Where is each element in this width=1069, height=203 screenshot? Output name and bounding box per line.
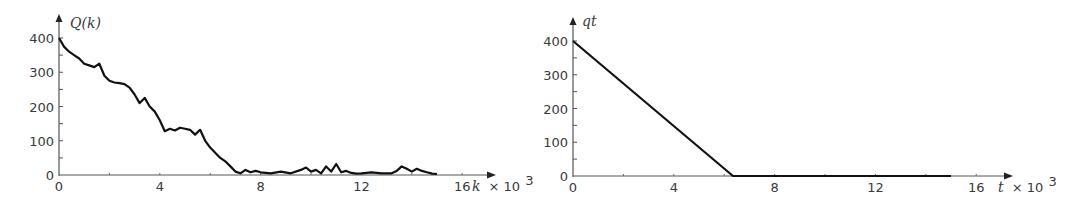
y-tick-label: 0 [560,169,568,184]
x-axis-label: k × 10 3 [472,173,534,195]
y-axis-arrow-icon [56,14,63,22]
y-tick-label: 400 [29,31,54,46]
x-tick-label: 12 [867,180,884,195]
x-tick-label: 0 [55,179,63,194]
fluid-queue-chart: 0100200300400 0481216 qt t × 10 3 [540,0,1069,203]
x-axis-label: t × 10 3 [998,174,1057,196]
queue-length-chart: 0100200300400 0481216 Q(k) k × 10 3 [0,0,540,203]
x-tick-label: 0 [569,180,577,195]
y-axis-label: qt [582,13,597,29]
y-axis-arrow-icon [570,17,577,25]
x-tick-label: 16 [968,180,985,195]
y-tick-label: 300 [543,68,568,83]
fluid-queue-series-line [573,41,951,176]
y-tick-label: 400 [543,34,568,49]
x-tick-label: 4 [670,180,678,195]
x-tick-label: 12 [353,179,370,194]
x-ticks: 0481216 [55,173,471,194]
queue-length-series-line [59,38,437,174]
y-tick-label: 200 [29,100,54,115]
x-tick-label: 4 [156,179,164,194]
y-axis-label: Q(k) [70,15,101,31]
x-tick-label: 16 [454,179,471,194]
x-ticks: 0481216 [569,174,985,195]
x-tick-label: 8 [770,180,778,195]
y-tick-label: 200 [543,102,568,117]
fluid-queue-plot: 0100200300400 0481216 qt t × 10 3 [540,0,1069,203]
x-axis-arrow-icon [487,172,496,179]
y-tick-label: 300 [29,65,54,80]
y-tick-label: 0 [46,168,54,183]
y-tick-label: 100 [29,134,54,149]
y-tick-label: 100 [543,135,568,150]
y-ticks: 0100200300400 [29,31,63,183]
x-tick-label: 8 [256,179,264,194]
queue-length-plot: 0100200300400 0481216 Q(k) k × 10 3 [0,0,540,203]
y-ticks: 0100200300400 [543,34,577,184]
